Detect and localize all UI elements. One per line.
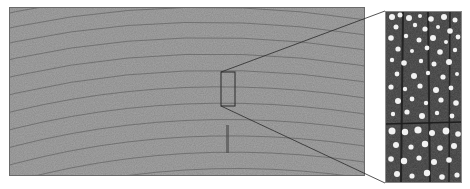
wood-figure: [0, 0, 470, 189]
magnified-pore-panel: [385, 11, 462, 183]
dark-streak: [226, 125, 229, 153]
wood-cross-section-panel: [0, 0, 420, 189]
